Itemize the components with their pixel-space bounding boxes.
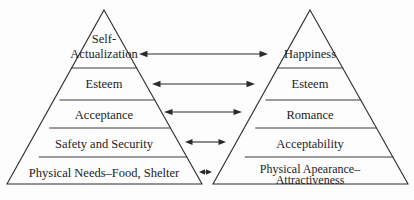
connector-arrow-2-head-left [152, 81, 161, 87]
connector-arrow-5 [199, 169, 212, 174]
left-tier-1-label-line1: Self- [92, 32, 116, 46]
connector-arrow-2-head-right [247, 81, 256, 87]
left-tier-4-label: Safety and Security [55, 137, 154, 151]
right-tier-5-label-line2: Attractiveness [276, 173, 345, 187]
right-tier-4-label: Acceptability [276, 137, 344, 151]
connector-arrow-1-head-left [139, 51, 148, 57]
connector-arrow-1 [139, 51, 268, 57]
right-tier-3-label: Romance [286, 108, 334, 122]
connector-arrows [139, 51, 268, 175]
connector-arrow-5-head-left [199, 169, 205, 174]
right-tier-1-label: Happiness [284, 47, 336, 61]
connector-arrow-4-head-left [185, 139, 193, 145]
right-pyramid: Happiness Esteem Romance Acceptability P… [213, 10, 408, 187]
connector-arrow-3-head-right [234, 109, 243, 115]
connector-arrow-3-head-left [164, 109, 173, 115]
left-tier-5-label: Physical Needs–Food, Shelter [29, 166, 180, 180]
connector-arrow-3 [164, 109, 242, 115]
left-pyramid: Self- Actualization Esteem Acceptance Sa… [7, 10, 202, 184]
right-tier-2-label: Esteem [292, 77, 329, 91]
left-tier-1-label-line2: Actualization [70, 47, 138, 61]
right-pyramid-outline [213, 10, 408, 184]
pyramid-comparison-diagram: Self- Actualization Esteem Acceptance Sa… [0, 0, 414, 200]
connector-arrow-1-head-right [260, 51, 269, 57]
connector-arrow-5-head-right [206, 169, 212, 174]
connector-arrow-4-head-right [219, 139, 227, 145]
left-tier-2-label: Esteem [86, 77, 123, 91]
connector-arrow-2 [152, 81, 255, 87]
diagram-canvas: Self- Actualization Esteem Acceptance Sa… [0, 0, 414, 200]
left-tier-3-label: Acceptance [75, 108, 134, 122]
connector-arrow-4 [185, 139, 226, 145]
